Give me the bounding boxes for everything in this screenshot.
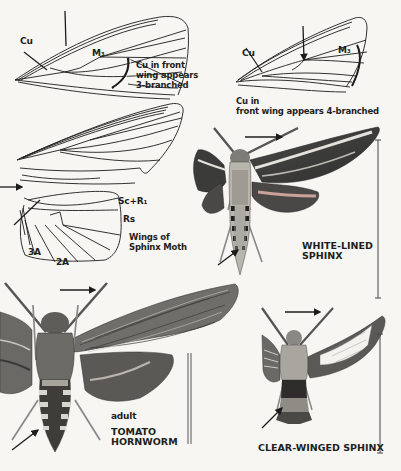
vein-label-m3-left: M₃: [92, 48, 105, 58]
vein-label-rs: Rs: [123, 214, 135, 224]
illustrations: [0, 0, 401, 471]
white-lined-sphinx-label: WHITE-LINED SPHINX: [302, 241, 373, 261]
vein-label-cu-right: Cu: [242, 48, 255, 58]
tomato-hornworm-label: TOMATO HORNWORM: [111, 427, 178, 447]
vein-label-sc-r1: Sc+R₁: [118, 196, 147, 206]
clear-winged-sphinx-label: CLEAR-WINGED SPHINX: [258, 443, 384, 453]
vein-label-cu-left: Cu: [20, 36, 33, 46]
wing-left-caption: Cu in front wing appears 3-branched: [136, 60, 198, 90]
adult-label: adult: [111, 411, 136, 421]
wing-right-caption: Cu in front wing appears 4-branched: [236, 96, 379, 116]
clear-winged-sphinx-illustration: [262, 308, 385, 453]
sphinx-wings-caption: Wings of Sphinx Moth: [129, 232, 187, 252]
vein-label-m3-right: M₃: [338, 45, 351, 55]
white-lined-sphinx-illustration: [194, 127, 382, 298]
vein-label-2a: 2A: [56, 257, 69, 267]
field-guide-page: Cu M₃ Cu in front wing appears 3-branche…: [0, 0, 401, 471]
vein-label-3a: 3A: [28, 247, 41, 257]
